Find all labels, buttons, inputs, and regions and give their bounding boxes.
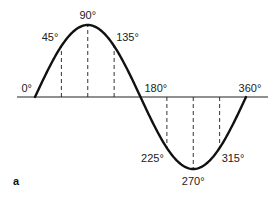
sine-wave-diagram: 45°90°135°225°270°315°0°180°360° a (0, 0, 280, 197)
marker-label-270: 270° (182, 175, 205, 187)
marker-label-135: 135° (116, 31, 139, 43)
marker-label-315: 315° (222, 152, 245, 164)
marker-label-225: 225° (141, 152, 164, 164)
axis-label-360: 360° (239, 82, 262, 94)
axis-label-180: 180° (145, 82, 168, 94)
panel-label: a (13, 175, 20, 187)
marker-label-90: 90° (79, 9, 96, 21)
axis-label-0: 0° (21, 82, 32, 94)
marker-label-45: 45° (42, 31, 59, 43)
